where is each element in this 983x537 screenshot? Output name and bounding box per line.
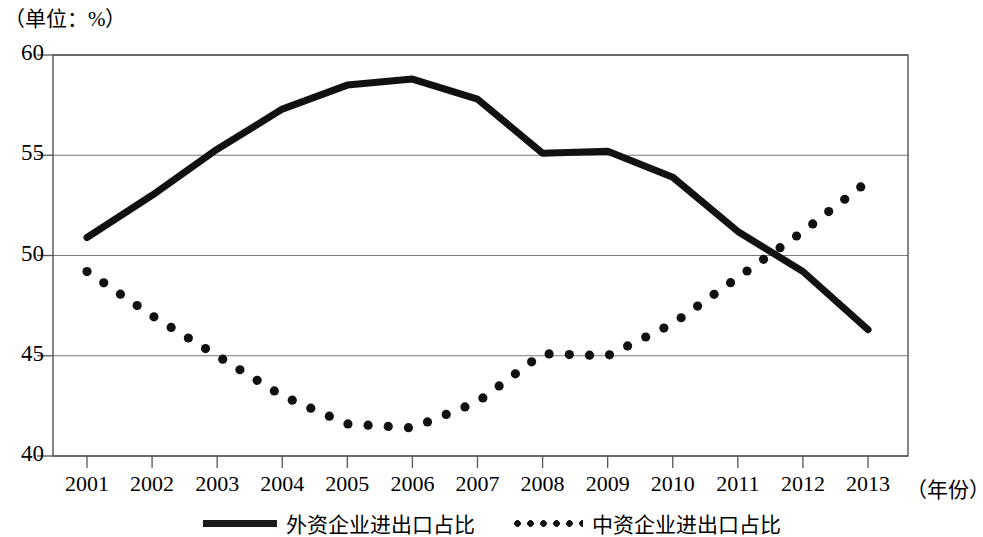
series-dot-1 (99, 278, 108, 287)
series-dot-5 (167, 323, 176, 332)
series-dot-16 (364, 421, 373, 430)
series-dot-25 (527, 357, 536, 366)
x-tick-label-2005: 2005 (325, 471, 369, 497)
x-tick-label-2009: 2009 (586, 471, 630, 497)
series-dot-35 (710, 290, 719, 299)
y-tick-label-45: 45 (0, 341, 44, 367)
x-tick-label-2013: 2013 (846, 471, 890, 497)
series-dot-7 (201, 344, 210, 353)
series-dot-14 (325, 412, 334, 421)
chart-container: （单位：%） 4045505560 2001200220032004200520… (0, 0, 983, 537)
series-dot-11 (270, 386, 279, 395)
legend-swatch-solid-line-icon (203, 520, 277, 527)
x-axis-name: （年份） (906, 473, 983, 503)
series-dot-23 (495, 381, 504, 390)
chart-plot-svg (0, 0, 983, 537)
series-dot-36 (726, 278, 735, 287)
series-dot-32 (659, 323, 668, 332)
legend-item-domestic[interactable]: 中资企业进出口占比 (509, 508, 781, 537)
series-dot-38 (759, 255, 768, 264)
series-dot-37 (742, 266, 751, 275)
series-dot-20 (442, 410, 451, 419)
x-tick-label-2008: 2008 (521, 471, 565, 497)
x-tick-label-2010: 2010 (651, 471, 695, 497)
y-tick-label-60: 60 (0, 40, 44, 66)
series-dot-0 (82, 267, 91, 276)
series-dot-3 (133, 301, 142, 310)
series-dot-10 (253, 376, 262, 385)
x-tick-label-2004: 2004 (260, 471, 304, 497)
series-dot-24 (511, 369, 520, 378)
series-dot-40 (792, 231, 801, 240)
series-dot-34 (693, 301, 702, 310)
series-dot-19 (423, 417, 432, 426)
x-tick-group (87, 456, 868, 468)
series-dot-42 (824, 207, 833, 216)
series-dot-26 (545, 349, 554, 358)
series-dot-44 (856, 182, 865, 191)
series-dot-2 (116, 290, 125, 299)
series-dot-6 (184, 333, 193, 342)
series-line-foreign (87, 79, 868, 330)
x-tick-label-2003: 2003 (195, 471, 239, 497)
x-tick-label-2011: 2011 (716, 471, 759, 497)
x-tick-label-2006: 2006 (390, 471, 434, 497)
series-dot-13 (306, 404, 315, 413)
series-dot-8 (218, 355, 227, 364)
x-tick-label-2001: 2001 (65, 471, 109, 497)
x-tick-label-2007: 2007 (456, 471, 500, 497)
x-tick-label-2002: 2002 (130, 471, 174, 497)
series-dot-43 (840, 195, 849, 204)
legend-swatch-dotted-line-icon (509, 520, 583, 527)
series-dot-17 (384, 422, 393, 431)
legend-item-foreign[interactable]: 外资企业进出口占比 (203, 508, 475, 537)
legend-label-foreign: 外资企业进出口占比 (286, 508, 475, 537)
series-dot-4 (149, 312, 158, 321)
y-tick-label-50: 50 (0, 241, 44, 267)
series-dot-18 (404, 423, 413, 432)
series-dot-15 (343, 419, 352, 428)
y-tick-label-40: 40 (0, 441, 44, 467)
series-dot-30 (623, 341, 632, 350)
series-dot-31 (641, 332, 650, 341)
x-tick-label-2012: 2012 (781, 471, 825, 497)
series-dot-29 (605, 350, 614, 359)
y-tick-label-55: 55 (0, 140, 44, 166)
series-dot-33 (677, 313, 686, 322)
series-dot-28 (585, 351, 594, 360)
series-dot-12 (288, 396, 297, 405)
series-dots-domestic (82, 182, 865, 432)
series-dot-22 (478, 393, 487, 402)
legend-label-domestic: 中资企业进出口占比 (592, 508, 781, 537)
series-dot-9 (235, 365, 244, 374)
series-dot-27 (565, 350, 574, 359)
series-dot-39 (775, 243, 784, 252)
series-dot-41 (808, 219, 817, 228)
series-dot-21 (460, 402, 469, 411)
chart-legend: 外资企业进出口占比 中资企业进出口占比 (0, 508, 983, 537)
